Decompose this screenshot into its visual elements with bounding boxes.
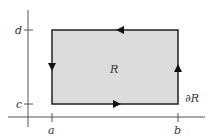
label-d: d [15, 24, 22, 37]
label-c: c [16, 98, 22, 111]
label-a: a [48, 124, 55, 137]
diagram-canvas: d c a b R ∂R [0, 0, 215, 140]
boundary-label: ∂R [185, 92, 199, 105]
region-label: R [109, 63, 118, 76]
label-b: b [174, 124, 181, 137]
